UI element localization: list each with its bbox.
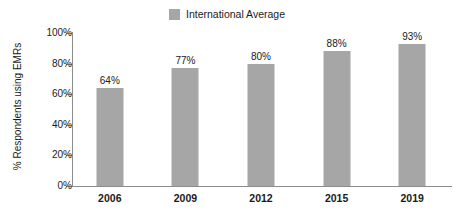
y-tick-label: 80% [14,59,72,69]
x-tick-label: 2012 [223,192,299,204]
x-tick-label: 2009 [148,192,224,204]
x-axis-labels: 2006 2009 2012 2015 2019 [72,0,450,221]
bar-chart: International Average % Respondents usin… [0,0,454,221]
x-tick-label: 2019 [374,192,450,204]
x-tick-label: 2015 [299,192,375,204]
y-axis-ticks: 100% 80% 60% 40% 20% 0% [0,0,72,221]
y-tick-label: 60% [14,89,72,99]
y-tick-label: 20% [14,150,72,160]
x-tick-label: 2006 [72,192,148,204]
y-tick-label: 0% [14,181,72,191]
y-tick-label: 40% [14,120,72,130]
y-tick-label: 100% [14,28,72,38]
